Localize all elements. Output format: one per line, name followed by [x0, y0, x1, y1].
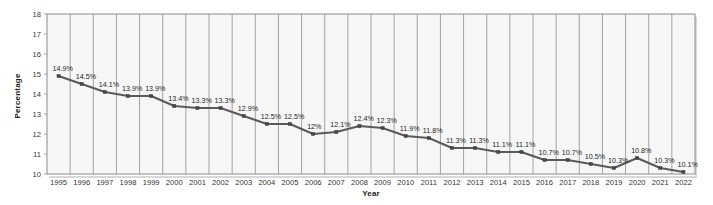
y-tick-label: 10 [33, 170, 41, 179]
y-tick-label: 16 [33, 50, 41, 59]
data-point-marker [404, 134, 407, 137]
data-point-marker [219, 106, 222, 109]
data-point-marker [265, 122, 268, 125]
x-tick-label: 1995 [50, 178, 67, 187]
data-point-marker [173, 104, 176, 107]
data-point-marker [589, 162, 592, 165]
x-tick-label: 2005 [282, 178, 299, 187]
data-value-label: 11.3% [469, 136, 489, 145]
data-value-label: 11.1% [515, 140, 535, 149]
y-tick-label: 12 [33, 130, 41, 139]
data-value-label: 12.4% [353, 114, 374, 123]
data-point-marker [566, 158, 569, 161]
data-value-label: 10.7% [562, 148, 583, 157]
data-point-marker [682, 170, 685, 173]
chart-canvas: 101112131415161718 199519961997199819992… [0, 0, 713, 205]
x-tick-label: 2010 [397, 178, 414, 187]
data-value-label: 12% [307, 122, 322, 131]
x-tick-label: 2012 [444, 178, 461, 187]
data-point-marker [612, 166, 615, 169]
data-point-marker [474, 146, 477, 149]
line-chart: 101112131415161718 199519961997199819992… [0, 0, 713, 205]
data-value-label: 10.7% [539, 148, 560, 157]
data-point-marker [335, 130, 338, 133]
data-point-marker [659, 166, 662, 169]
x-tick-label: 2018 [582, 178, 599, 187]
data-value-label: 14.5% [76, 72, 97, 81]
x-tick-label: 2020 [629, 178, 646, 187]
y-tick-label: 18 [33, 10, 41, 19]
x-tick-label: 2019 [606, 178, 623, 187]
x-tick-label: 2006 [305, 178, 322, 187]
y-tick-label: 17 [33, 30, 41, 39]
x-tick-label: 1996 [73, 178, 90, 187]
data-point-marker [80, 82, 83, 85]
data-value-label: 12.5% [261, 112, 282, 121]
data-point-marker [381, 126, 384, 129]
data-point-marker [427, 136, 430, 139]
data-value-label: 12.3% [377, 116, 398, 125]
data-point-marker [242, 114, 245, 117]
x-tick-label: 2013 [467, 178, 484, 187]
data-value-label: 12.9% [238, 104, 259, 113]
data-value-label: 12.5% [284, 112, 305, 121]
x-tick-label: 2014 [490, 178, 507, 187]
data-value-label: 11.1% [492, 140, 512, 149]
x-tick-label: 2017 [559, 178, 576, 187]
data-value-label: 12.1% [330, 120, 351, 129]
x-axis-tick-labels: 1995199619971998199920002001200220032004… [50, 178, 692, 187]
x-tick-label: 2011 [421, 178, 437, 187]
data-point-marker [150, 94, 153, 97]
data-value-label: 13.9% [145, 84, 166, 93]
y-tick-label: 13 [33, 110, 41, 119]
x-tick-label: 1997 [96, 178, 113, 187]
data-value-label: 11.8% [423, 126, 443, 135]
data-point-marker [543, 158, 546, 161]
x-tick-label: 2016 [536, 178, 553, 187]
data-value-label: 13.9% [122, 84, 143, 93]
x-tick-label: 2007 [328, 178, 345, 187]
data-value-label: 13.3% [191, 96, 212, 105]
data-value-label: 10.3% [608, 156, 629, 165]
data-point-marker [312, 132, 315, 135]
x-tick-label: 2008 [351, 178, 368, 187]
data-value-label: 14.9% [53, 64, 74, 73]
data-point-marker [358, 124, 361, 127]
x-tick-label: 1999 [143, 178, 160, 187]
y-tick-label: 14 [33, 90, 41, 99]
data-point-marker [450, 146, 453, 149]
x-tick-label: 1998 [120, 178, 137, 187]
data-point-marker [288, 122, 291, 125]
data-value-label: 10.5% [585, 152, 606, 161]
data-value-label: 11.9% [400, 124, 420, 133]
x-tick-label: 2003 [235, 178, 252, 187]
x-tick-label: 2001 [189, 178, 206, 187]
data-point-marker [520, 150, 523, 153]
data-value-label: 10.1% [677, 160, 698, 169]
data-value-label: 10.3% [654, 156, 675, 165]
data-point-marker [636, 156, 639, 159]
y-tick-label: 11 [33, 150, 41, 159]
data-value-label: 10.8% [631, 146, 652, 155]
y-axis-tick-labels: 101112131415161718 [33, 10, 41, 179]
data-point-marker [57, 74, 60, 77]
x-tick-label: 2002 [212, 178, 229, 187]
data-point-marker [497, 150, 500, 153]
data-point-marker [103, 90, 106, 93]
data-point-marker [196, 106, 199, 109]
data-value-label: 14.1% [99, 80, 120, 89]
data-point-marker [126, 94, 129, 97]
y-tick-label: 15 [33, 70, 41, 79]
x-tick-label: 2000 [166, 178, 183, 187]
x-tick-label: 2015 [513, 178, 530, 187]
x-axis-title: Year [362, 189, 380, 198]
x-tick-label: 2021 [652, 178, 669, 187]
x-tick-label: 2022 [675, 178, 692, 187]
y-axis-title: Percentage [13, 73, 22, 118]
data-value-label: 11.3% [446, 136, 466, 145]
x-tick-label: 2009 [374, 178, 391, 187]
x-tick-label: 2004 [258, 178, 275, 187]
data-value-label: 13.4% [168, 94, 189, 103]
data-value-label: 13.3% [215, 96, 236, 105]
